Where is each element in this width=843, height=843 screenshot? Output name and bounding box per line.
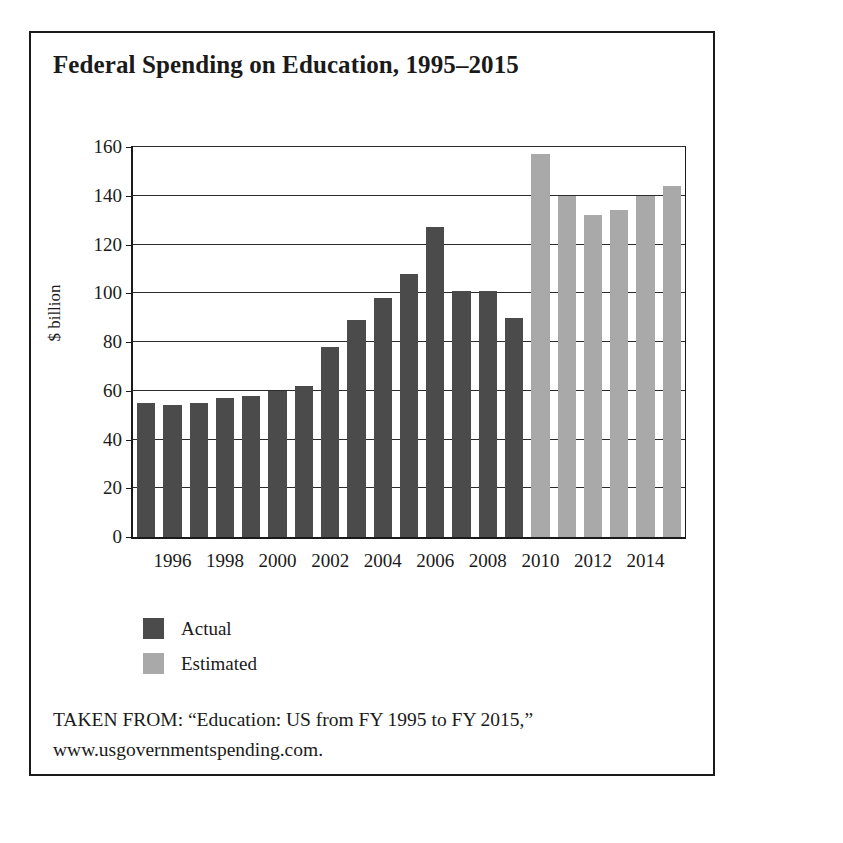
bar-2003 (347, 320, 365, 537)
x-tick-label-2006: 2006 (416, 550, 454, 572)
y-tick-label-160: 160 (94, 136, 123, 158)
bar-1997 (190, 403, 208, 537)
y-tick-label-40: 40 (103, 428, 122, 450)
legend-swatch-estimated (143, 653, 164, 674)
y-tick-mark-160 (126, 147, 133, 148)
y-axis-title: $ billion (45, 253, 65, 373)
y-tick-mark-60 (126, 391, 133, 392)
x-tick-label-1998: 1998 (206, 550, 244, 572)
x-tick-label-1996: 1996 (153, 550, 191, 572)
y-tick-mark-140 (126, 196, 133, 197)
figure-frame: Federal Spending on Education, 1995–2015… (29, 31, 715, 776)
bar-2014 (636, 196, 654, 537)
y-tick-mark-120 (126, 245, 133, 246)
bar-2000 (268, 391, 286, 537)
bars-layer (133, 147, 685, 537)
chart-legend: ActualEstimated (143, 611, 257, 681)
plot-container: $ billion 020406080100120140160 19961998… (31, 33, 717, 778)
y-tick-label-20: 20 (103, 477, 122, 499)
y-tick-mark-100 (126, 293, 133, 294)
y-tick-label-100: 100 (94, 282, 123, 304)
plot-area: 020406080100120140160 199619982000200220… (131, 146, 686, 539)
bar-2004 (374, 298, 392, 537)
x-tick-label-2008: 2008 (469, 550, 507, 572)
bar-2002 (321, 347, 339, 537)
bar-1998 (216, 398, 234, 537)
y-tick-label-120: 120 (94, 233, 123, 255)
bar-2008 (479, 291, 497, 537)
x-tick-label-2012: 2012 (574, 550, 612, 572)
y-tick-mark-80 (126, 342, 133, 343)
legend-label-estimated: Estimated (181, 653, 257, 675)
y-tick-label-140: 140 (94, 184, 123, 206)
bar-1999 (242, 396, 260, 537)
x-tick-label-2004: 2004 (364, 550, 402, 572)
bar-2005 (400, 274, 418, 537)
bar-2012 (584, 215, 602, 537)
bar-2009 (505, 318, 523, 537)
bar-2010 (531, 154, 549, 537)
x-tick-label-2014: 2014 (627, 550, 665, 572)
bar-1996 (163, 405, 181, 537)
y-tick-label-0: 0 (113, 526, 123, 548)
y-tick-mark-0 (126, 537, 133, 538)
y-tick-mark-40 (126, 440, 133, 441)
bar-2013 (610, 210, 628, 537)
source-caption: TAKEN FROM: “Education: US from FY 1995 … (53, 705, 673, 765)
bar-1995 (137, 403, 155, 537)
x-tick-label-2010: 2010 (521, 550, 559, 572)
bar-2006 (426, 227, 444, 537)
bar-2001 (295, 386, 313, 537)
legend-item-actual: Actual (143, 611, 257, 646)
y-tick-label-60: 60 (103, 379, 122, 401)
legend-item-estimated: Estimated (143, 646, 257, 681)
legend-swatch-actual (143, 618, 164, 639)
bar-2015 (663, 186, 681, 537)
x-tick-label-2000: 2000 (259, 550, 297, 572)
y-tick-mark-20 (126, 488, 133, 489)
y-tick-label-80: 80 (103, 331, 122, 353)
bar-2011 (558, 196, 576, 537)
bar-2007 (452, 291, 470, 537)
legend-label-actual: Actual (181, 618, 232, 640)
x-tick-label-2002: 2002 (311, 550, 349, 572)
